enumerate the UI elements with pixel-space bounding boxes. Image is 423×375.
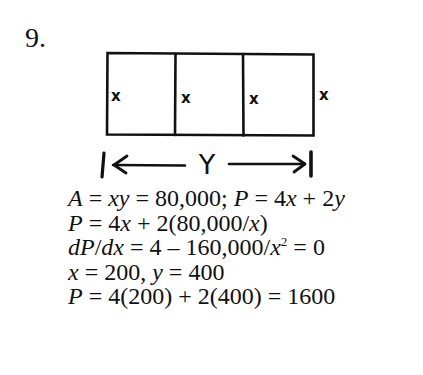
math-text: + 2 (297, 185, 335, 211)
side-label-x-1: x (111, 87, 121, 105)
math-text: = 4 (248, 185, 286, 211)
side-labels: x x x x (111, 86, 329, 108)
math-variable: A (68, 185, 83, 211)
math-variable: x (120, 210, 131, 236)
math-variable: P (68, 283, 83, 309)
math-variable: dx (101, 234, 124, 260)
math-variable: P (234, 185, 249, 211)
math-text: = 0 (287, 234, 325, 260)
fence-diagram: x x x x Y (0, 0, 423, 185)
math-text: = 4 (83, 210, 121, 236)
math-variable: y (152, 259, 163, 285)
math-variable: P (68, 210, 83, 236)
math-text: + 2(80,000/ (131, 210, 249, 236)
equation-line-3: dP/dx = 4 – 160,000/x2 = 0 (68, 235, 345, 260)
math-text: ) (260, 210, 268, 236)
dimension-label-y: Y (198, 149, 216, 180)
rectangle-panels (107, 53, 314, 136)
math-variable: xy (108, 185, 129, 211)
divider-line-1 (175, 54, 176, 135)
solution-equations: A = xy = 80,000; P = 4x + 2y P = 4x + 2(… (68, 186, 345, 309)
math-variable: dP (68, 234, 95, 260)
divider-line-2 (243, 54, 244, 136)
side-label-x-3: x (249, 90, 259, 108)
equation-line-2: P = 4x + 2(80,000/x) (68, 211, 345, 236)
math-text: = 200, (79, 259, 153, 285)
math-text: = (83, 185, 109, 211)
side-label-x-2: x (181, 89, 191, 107)
math-variable: x (68, 259, 79, 285)
left-end-tick (102, 153, 104, 177)
left-arrow-shaft (113, 165, 185, 166)
math-text: = 4(200) + 2(400) = 1600 (83, 283, 336, 309)
equation-line-5: P = 4(200) + 2(400) = 1600 (68, 284, 345, 309)
math-variable: x (270, 234, 281, 260)
equation-line-4: x = 200, y = 400 (68, 260, 345, 285)
math-text: = 4 – 160,000/ (124, 234, 270, 260)
side-label-x-4: x (319, 86, 329, 104)
math-variable: y (334, 185, 345, 211)
math-variable: x (286, 185, 297, 211)
outer-rectangle (107, 53, 314, 136)
equation-line-1: A = xy = 80,000; P = 4x + 2y (68, 186, 345, 211)
math-variable: x (249, 210, 260, 236)
math-text: = 80,000; (130, 185, 234, 211)
math-text: = 400 (163, 259, 225, 285)
